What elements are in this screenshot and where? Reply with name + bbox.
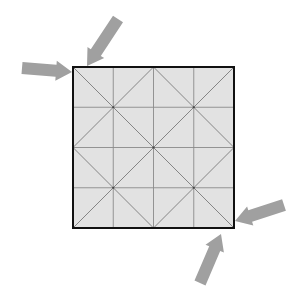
paper-square bbox=[73, 67, 234, 228]
arrow-left-top-icon bbox=[22, 61, 73, 81]
intersection-dot bbox=[193, 106, 195, 108]
intersection-dot bbox=[112, 187, 114, 189]
intersection-dot bbox=[193, 187, 195, 189]
intersection-dot bbox=[152, 146, 154, 148]
arrow-bottom-right-icon bbox=[195, 234, 224, 285]
crease-pattern-diagram bbox=[0, 0, 302, 302]
arrow-right-bottom-icon bbox=[235, 199, 286, 225]
intersection-dot bbox=[112, 106, 114, 108]
arrow-top-left-icon bbox=[87, 16, 123, 66]
